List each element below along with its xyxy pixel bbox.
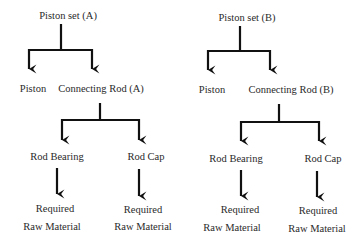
tree-a-bearing-raw-material-label: Raw Material <box>23 222 80 233</box>
tree-a-cap-required-label: Required <box>124 205 163 216</box>
tree-a-root-label: Piston set (A) <box>39 11 97 22</box>
tree-b-root-label: Piston set (B) <box>218 13 275 24</box>
tree-a-cap-raw-material-label: Raw Material <box>114 222 171 233</box>
tree-a-connectors <box>29 24 140 196</box>
tree-b-connectors <box>208 26 320 197</box>
tree-a-rod-cap-label: Rod Cap <box>127 152 164 163</box>
tree-b-rod-bearing-label: Rod Bearing <box>209 154 262 165</box>
tree-b-bearing-raw-material-label: Raw Material <box>203 223 260 234</box>
tree-a-bearing-required-label: Required <box>36 204 75 215</box>
tree-b-cap-required-label: Required <box>299 206 338 217</box>
tree-b-connecting-rod-label: Connecting Rod (B) <box>248 85 333 96</box>
tree-b-cap-raw-material-label: Raw Material <box>288 224 345 235</box>
tree-b-piston-label: Piston <box>199 85 225 96</box>
tree-a-connecting-rod-label: Connecting Rod (A) <box>58 84 144 95</box>
tree-a-rod-bearing-label: Rod Bearing <box>30 152 83 163</box>
diagram-canvas: Piston set (A) Piston Connecting Rod (A)… <box>0 0 359 245</box>
tree-b-bearing-required-label: Required <box>221 205 260 216</box>
tree-a-piston-label: Piston <box>20 84 46 95</box>
tree-b-rod-cap-label: Rod Cap <box>304 154 341 165</box>
